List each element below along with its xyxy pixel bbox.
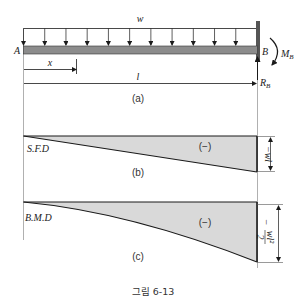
bmd-sign: (−) [199,217,212,228]
load-label: w [137,13,144,24]
sfd-magnitude: −wl [263,146,274,162]
svg-text:−: − [261,219,272,226]
panel-b-sfd: S.F.D (−) (b) −wl [24,136,276,178]
end-b-label: B [262,46,268,57]
sfd-title: S.F.D [27,143,50,154]
dim-x-label: x [47,57,53,68]
svg-text:2: 2 [255,235,266,240]
dim-l-label: l [137,71,140,82]
sfd-sign: (−) [199,141,212,152]
bmd-title: B.M.D [25,212,52,223]
panel-a-beam: w A B MB RB x l (a) [13,13,294,104]
panel-a-label: (a) [132,93,144,104]
panel-b-label: (b) [132,167,144,178]
moment-label: MB [280,48,294,61]
beam [24,46,258,54]
load-arrows [24,29,236,46]
figure-caption: 그림 6-13 [0,284,306,298]
panel-c-bmd: B.M.D (−) (c) − wl² 2 [24,202,284,263]
reaction-label: RB [259,77,271,90]
fixed-wall [256,21,260,61]
bmd-magnitude: − wl² 2 [255,219,276,245]
end-a-label: A [13,45,21,56]
moment-arrow-icon [270,38,278,65]
beam-diagram-figure: w A B MB RB x l (a) S.F.D (−) (b) −wl B.… [0,0,306,304]
panel-c-label: (c) [132,251,144,262]
